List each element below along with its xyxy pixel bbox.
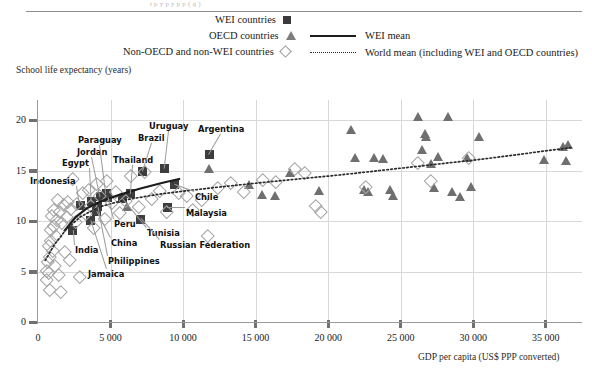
x-tick-label: 5 000 bbox=[81, 332, 141, 343]
y-tick-label: 0 bbox=[4, 316, 26, 327]
y-tick-label: 15 bbox=[4, 165, 26, 176]
y-tick-label: 5 bbox=[4, 266, 26, 277]
trend-lines bbox=[38, 100, 582, 322]
diamond-marker-icon bbox=[279, 45, 292, 58]
top-rule bbox=[26, 11, 582, 12]
triangle-marker-icon bbox=[286, 31, 296, 40]
legend-label-world-mean: World mean (including WEI and OECD count… bbox=[365, 47, 578, 58]
legend-label-wei-mean: WEI mean bbox=[365, 30, 410, 41]
country-label: Paraguay bbox=[78, 135, 122, 145]
country-label: Egypt bbox=[62, 158, 89, 168]
x-tick-label: 0 bbox=[8, 332, 68, 343]
y-axis-title: School life expectancy (years) bbox=[16, 65, 131, 76]
x-tick-label: 35 000 bbox=[516, 332, 576, 343]
square-marker-icon bbox=[283, 16, 291, 24]
country-label: India bbox=[75, 245, 98, 255]
legend-label-other: Non-OECD and non-WEI countries bbox=[123, 46, 274, 57]
legend-item-other: Non-OECD and non-WEI countries bbox=[123, 46, 290, 57]
country-label: Chile bbox=[195, 192, 218, 202]
country-label: Peru bbox=[114, 219, 136, 229]
leader-line bbox=[167, 207, 185, 208]
x-tick-label: 20 000 bbox=[298, 332, 358, 343]
country-label: Philippines bbox=[108, 256, 160, 266]
x-tick-label: 10 000 bbox=[153, 332, 213, 343]
country-label: Russian Federation bbox=[160, 240, 250, 250]
legend: WEI countries OECD countries Non-OECD an… bbox=[0, 14, 592, 64]
x-axis-line bbox=[37, 322, 582, 323]
country-label: China bbox=[111, 238, 137, 248]
country-label: Argentina bbox=[198, 124, 244, 134]
solid-line-icon bbox=[310, 35, 356, 37]
legend-item-world-mean: World mean (including WEI and OECD count… bbox=[310, 47, 578, 58]
legend-item-wei: WEI countries bbox=[215, 14, 291, 25]
legend-item-wei-mean: WEI mean bbox=[310, 30, 410, 41]
y-tick-label: 10 bbox=[4, 215, 26, 226]
country-label: Jamaica bbox=[88, 269, 124, 279]
x-tick-label: 15 000 bbox=[226, 332, 286, 343]
country-label: Malaysia bbox=[186, 208, 227, 218]
legend-label-oecd: OECD countries bbox=[209, 30, 279, 41]
country-label: Brazil bbox=[138, 133, 165, 143]
clipped-title: t p y p y p p ( q ) bbox=[150, 0, 450, 9]
figure-root: t p y p y p p ( q ) WEI countries OECD c… bbox=[0, 0, 592, 374]
x-axis-title: GDP per capita (US$ PPP converted) bbox=[418, 352, 560, 362]
country-label: Jordan bbox=[77, 147, 107, 157]
legend-item-oecd: OECD countries bbox=[209, 30, 296, 41]
country-label: Uruguay bbox=[149, 121, 188, 131]
dotted-line-icon bbox=[310, 52, 356, 53]
y-tick-label: 20 bbox=[4, 114, 26, 125]
x-tick-label: 30 000 bbox=[443, 332, 503, 343]
legend-label-wei: WEI countries bbox=[215, 14, 276, 25]
x-tick-label: 25 000 bbox=[371, 332, 431, 343]
y-axis-line bbox=[37, 100, 38, 324]
